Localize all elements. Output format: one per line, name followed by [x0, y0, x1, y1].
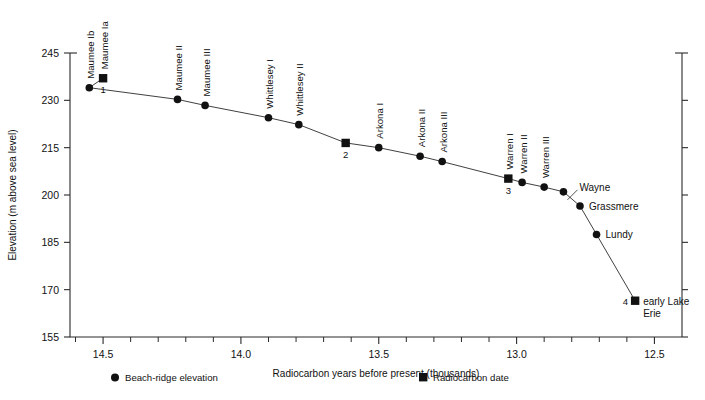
axis-frame [70, 53, 682, 337]
beach-ridge-point-marker[interactable] [85, 84, 93, 92]
point-label-vertical: Arkona I [374, 103, 385, 139]
beach-ridge-point-marker[interactable] [265, 114, 273, 122]
radiocarbon-date-marker[interactable] [504, 174, 512, 182]
y-tick-label: 245 [41, 47, 59, 59]
beach-ridge-point-marker[interactable] [375, 144, 383, 152]
y-tick-label: 215 [41, 142, 59, 154]
legend-label-radiocarbon: Radiocarbon date [433, 372, 509, 383]
y-tick-label: 185 [41, 236, 59, 248]
legend-label-beach-ridge: Beach-ridge elevation [125, 372, 218, 383]
beach-ridge-point-marker[interactable] [438, 158, 446, 166]
date-number-label: 2 [343, 149, 348, 160]
point-label: Grassmere [589, 201, 639, 212]
date-number-label: 1 [100, 84, 105, 95]
beach-ridge-point-marker[interactable] [576, 202, 584, 210]
point-label: Wayne [579, 182, 610, 193]
x-tick-label: 13.5 [369, 348, 390, 360]
radiocarbon-date-marker[interactable] [99, 74, 107, 82]
y-axis-title: Elevation (m above sea level) [7, 129, 18, 260]
x-tick-label: 14.5 [93, 348, 114, 360]
point-label-vertical: Warren II [518, 134, 529, 173]
label-leader-line [567, 190, 577, 200]
y-tick-label: 230 [41, 94, 59, 106]
point-label-vertical: Whittlesey II [294, 63, 305, 115]
beach-ridge-point-marker[interactable] [174, 96, 182, 104]
point-label-vertical: Warren III [540, 136, 551, 178]
beach-ridge-point-marker[interactable] [295, 121, 303, 129]
date-number-label: 4 [623, 296, 628, 307]
y-tick-label: 200 [41, 189, 59, 201]
beach-ridge-point-marker[interactable] [518, 179, 526, 187]
series-line [89, 78, 635, 301]
radiocarbon-elevation-chart: 15517018520021523024514.514.013.513.012.… [0, 0, 705, 400]
date-number-label: 3 [506, 185, 511, 196]
point-label: Lundy [606, 229, 633, 240]
x-tick-label: 14.0 [231, 348, 252, 360]
x-tick-label: 12.5 [644, 348, 665, 360]
point-label-vertical: Warren I [504, 133, 515, 169]
point-label-vertical: Whittlesey I [264, 59, 275, 109]
radiocarbon-date-marker[interactable] [631, 297, 639, 305]
legend-square-icon [419, 373, 427, 381]
point-label-vertical: Maumee III [201, 48, 212, 96]
point-label-vertical: Arkona II [416, 109, 427, 147]
point-label-vertical: Arkona III [438, 111, 449, 152]
y-tick-label: 155 [41, 331, 59, 343]
point-label-vertical: Maumee Ia [99, 21, 110, 70]
radiocarbon-date-marker[interactable] [341, 139, 349, 147]
beach-ridge-point-marker[interactable] [416, 152, 424, 160]
beach-ridge-point-marker[interactable] [540, 183, 548, 191]
chart-svg: 15517018520021523024514.514.013.513.012.… [0, 0, 705, 400]
x-tick-label: 13.0 [506, 348, 527, 360]
legend-circle-icon [111, 374, 119, 382]
point-label-vertical: Maumee II [173, 45, 184, 90]
beach-ridge-point-marker[interactable] [593, 231, 601, 239]
beach-ridge-point-marker[interactable] [560, 188, 568, 196]
point-label-line2: Erie [643, 308, 661, 319]
y-tick-label: 170 [41, 284, 59, 296]
point-label: early Lake [643, 296, 690, 307]
point-label-vertical: Maumee Ib [85, 31, 96, 79]
beach-ridge-point-marker[interactable] [201, 102, 209, 110]
